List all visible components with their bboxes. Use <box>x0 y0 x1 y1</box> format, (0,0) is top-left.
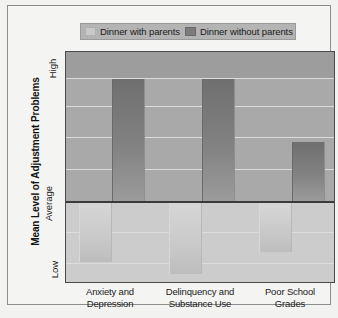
gridline <box>66 106 334 107</box>
bar-anxiety-dinner-with-parents <box>79 203 112 262</box>
legend-label-dinner-with-parents: Dinner with parents <box>100 26 180 37</box>
y-tick-label-high: High <box>47 44 58 94</box>
chart-figure: Dinner with parents Dinner without paren… <box>0 0 338 318</box>
y-axis-title: Mean Level of Adjustment Problems <box>30 67 41 257</box>
figure-frame: Dinner with parents Dinner without paren… <box>7 5 331 305</box>
bar-anxiety-dinner-without-parents <box>112 79 145 202</box>
legend-swatch-dark-icon <box>185 27 196 36</box>
gridline <box>66 137 334 138</box>
x-tick-label-delinquency: Delinquency and Substance Use <box>155 286 245 309</box>
y-tick-label-average: Average <box>43 179 54 229</box>
y-tick-label-low: Low <box>49 245 60 295</box>
x-tick-line-1: Delinquency and <box>155 286 245 298</box>
plot-top-band <box>66 52 334 79</box>
legend-swatch-light-icon <box>85 27 96 36</box>
bar-delinquency-dinner-without-parents <box>202 79 235 202</box>
x-tick-line-2: Depression <box>65 298 155 310</box>
x-axis-tick-labels: Anxiety and Depression Delinquency and S… <box>65 286 335 309</box>
x-tick-line-1: Poor School <box>245 286 335 298</box>
x-tick-line-2: Grades <box>245 298 335 310</box>
bar-delinquency-dinner-with-parents <box>169 203 202 274</box>
average-reference-line <box>66 201 334 203</box>
legend-item-dinner-with-parents: Dinner with parents <box>85 26 180 37</box>
bar-grades-dinner-with-parents <box>259 203 292 252</box>
x-tick-label-grades: Poor School Grades <box>245 286 335 309</box>
legend-label-dinner-without-parents: Dinner without parents <box>200 26 293 37</box>
x-tick-label-anxiety: Anxiety and Depression <box>65 286 155 309</box>
x-tick-line-1: Anxiety and <box>65 286 155 298</box>
bar-grades-dinner-without-parents <box>292 142 325 202</box>
plot-area <box>65 51 335 283</box>
chart-legend: Dinner with parents Dinner without paren… <box>80 23 296 40</box>
x-tick-line-2: Substance Use <box>155 298 245 310</box>
legend-item-dinner-without-parents: Dinner without parents <box>185 26 293 37</box>
gridline <box>66 78 334 79</box>
